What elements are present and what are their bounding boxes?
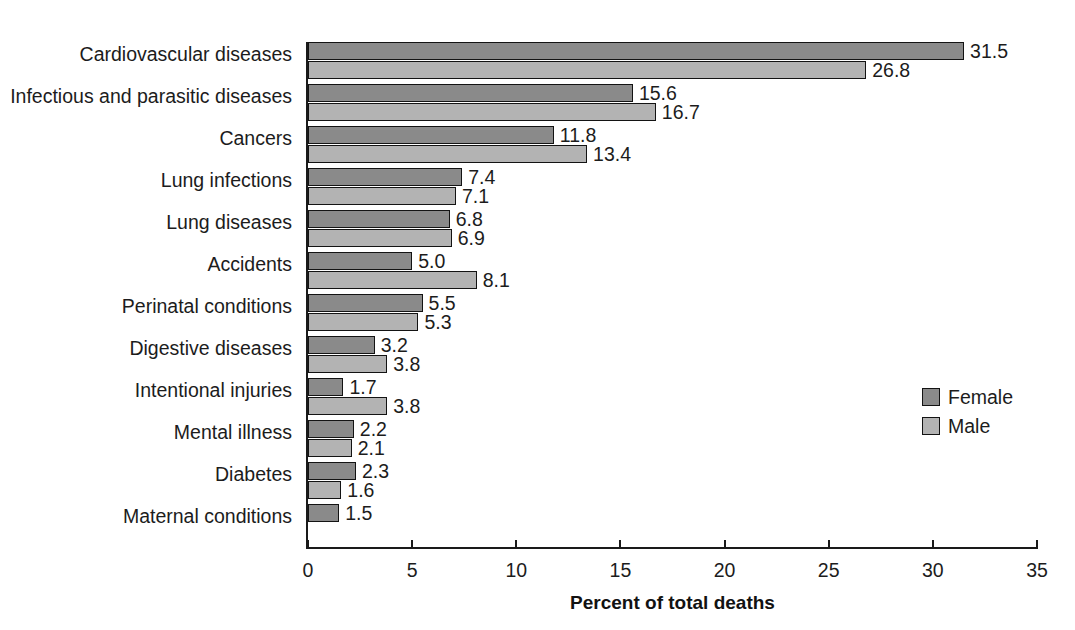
bar-female	[308, 252, 412, 270]
bar-value-label: 16.7	[662, 103, 700, 122]
bar-value-label: 8.1	[483, 271, 510, 290]
bar-female	[308, 126, 554, 144]
legend-label: Male	[948, 416, 990, 436]
bar-value-label: 1.5	[345, 504, 372, 523]
bar-male	[308, 145, 587, 163]
bar-group: 6.86.9	[308, 210, 1037, 252]
bar-chart: Cardiovascular diseasesInfectious and pa…	[0, 0, 1075, 630]
bar-female	[308, 462, 356, 480]
bar-group: 2.31.6	[308, 462, 1037, 504]
x-tick	[619, 540, 621, 549]
bar-value-label: 3.8	[393, 397, 420, 416]
bar-male	[308, 355, 387, 373]
category-label: Maternal conditions	[0, 506, 292, 526]
x-tick	[828, 540, 830, 549]
bar-value-label: 1.7	[349, 378, 376, 397]
bar-female	[308, 504, 339, 522]
bar-group: 31.526.8	[308, 42, 1037, 84]
category-axis-labels: Cardiovascular diseasesInfectious and pa…	[0, 42, 300, 547]
bar-female	[308, 210, 450, 228]
bar-male	[308, 439, 352, 457]
x-tick	[515, 540, 517, 549]
category-label: Cancers	[0, 128, 292, 148]
category-label: Diabetes	[0, 464, 292, 484]
bar-value-label: 3.8	[393, 355, 420, 374]
x-tick	[724, 540, 726, 549]
bar-group: 5.08.1	[308, 252, 1037, 294]
x-tick-label: 25	[818, 560, 840, 580]
bar-value-label: 11.8	[560, 126, 597, 145]
bar-female	[308, 42, 964, 60]
x-tick-label: 20	[714, 560, 736, 580]
category-label: Lung infections	[0, 170, 292, 190]
x-tick-label: 15	[610, 560, 632, 580]
x-tick	[1036, 540, 1038, 549]
x-axis-title: Percent of total deaths	[308, 592, 1037, 614]
x-tick	[307, 540, 309, 549]
bar-group: 5.55.3	[308, 294, 1037, 336]
bar-female	[308, 84, 633, 102]
x-tick-label: 35	[1026, 560, 1048, 580]
legend-label: Female	[948, 387, 1013, 407]
bar-group: 7.47.1	[308, 168, 1037, 210]
bar-value-label: 2.1	[358, 439, 385, 458]
x-tick-label: 5	[407, 560, 418, 580]
bar-male	[308, 187, 456, 205]
bar-female	[308, 378, 343, 396]
bar-female	[308, 168, 462, 186]
bar-male	[308, 397, 387, 415]
x-tick	[411, 540, 413, 549]
bar-value-label: 5.0	[418, 252, 445, 271]
category-label: Infectious and parasitic diseases	[0, 86, 292, 106]
bar-value-label: 6.9	[458, 229, 485, 248]
bar-male	[308, 61, 866, 79]
bar-value-label: 26.8	[872, 61, 910, 80]
category-label: Mental illness	[0, 422, 292, 442]
legend-item-female: Female	[922, 384, 1013, 410]
x-tick-label: 0	[303, 560, 314, 580]
x-tick-label: 30	[922, 560, 944, 580]
bar-female	[308, 420, 354, 438]
bar-value-label: 1.6	[347, 481, 374, 500]
category-label: Cardiovascular diseases	[0, 44, 292, 64]
plot-area: 31.526.815.616.711.813.47.47.16.86.95.08…	[308, 42, 1037, 547]
bar-group: 1.5	[308, 504, 1037, 546]
bar-value-label: 31.5	[970, 42, 1008, 61]
legend-swatch-male	[922, 417, 940, 435]
bar-male	[308, 229, 452, 247]
bar-group: 3.23.8	[308, 336, 1037, 378]
category-label: Digestive diseases	[0, 338, 292, 358]
bar-male	[308, 103, 656, 121]
category-label: Lung diseases	[0, 212, 292, 232]
legend: FemaleMale	[922, 384, 1013, 442]
bar-male	[308, 271, 477, 289]
bar-group: 11.813.4	[308, 126, 1037, 168]
legend-swatch-female	[922, 388, 940, 406]
category-label: Accidents	[0, 254, 292, 274]
bar-value-label: 5.3	[424, 313, 451, 332]
bar-female	[308, 336, 375, 354]
bar-female	[308, 294, 423, 312]
bar-value-label: 7.1	[462, 187, 489, 206]
category-label: Intentional injuries	[0, 380, 292, 400]
x-tick-label: 10	[505, 560, 527, 580]
bar-value-label: 13.4	[593, 145, 631, 164]
legend-item-male: Male	[922, 413, 1013, 439]
x-tick	[932, 540, 934, 549]
bar-male	[308, 481, 341, 499]
bar-group: 15.616.7	[308, 84, 1037, 126]
category-label: Perinatal conditions	[0, 296, 292, 316]
x-axis-line	[306, 547, 1037, 549]
bar-male	[308, 313, 418, 331]
